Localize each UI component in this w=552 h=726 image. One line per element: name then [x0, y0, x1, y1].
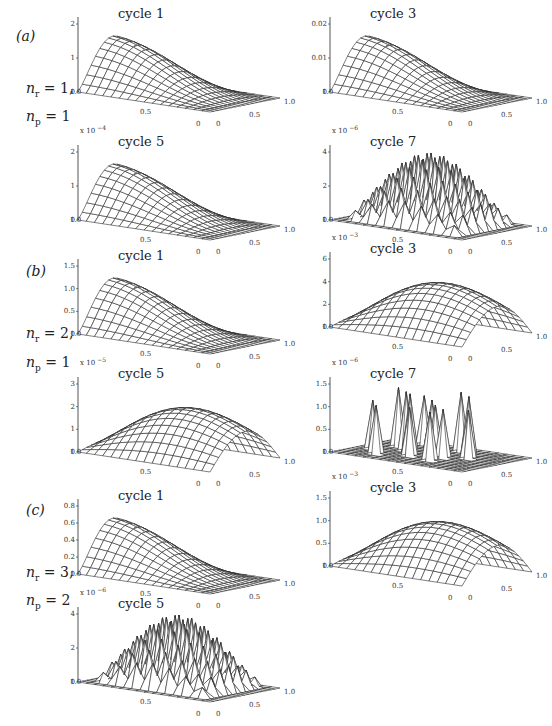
z-axis-tick-label: 1.0	[64, 285, 75, 293]
right-axis-tick-label: 0.5	[501, 239, 512, 247]
left-axis-tick-label: 0.5	[392, 108, 403, 116]
right-axis-tick-label: 0.5	[501, 585, 512, 593]
surface-mesh	[322, 494, 542, 614]
nr-subscript: r	[35, 89, 39, 99]
right-axis-tick-label: 0	[216, 480, 220, 488]
z-axis-tick-label: 0.2	[64, 553, 75, 561]
surface-plot-b-cycle-5: 01231.00.5000.51.0cycle 5x 10 −5	[70, 380, 290, 500]
right-axis-tick-label: 0.5	[501, 471, 512, 479]
surface-mesh	[322, 148, 542, 268]
right-axis-tick-label: 0.5	[249, 593, 260, 601]
right-axis-tick-label: 0.5	[249, 701, 260, 709]
left-axis-tick-label: 0	[196, 602, 200, 610]
z-axis-tick-label: 0.02	[311, 20, 327, 28]
left-axis-tick-label: 0	[448, 594, 452, 602]
right-axis-tick-label: 0	[216, 362, 220, 370]
param-np-a: np = 1	[26, 108, 70, 127]
right-axis-tick-label: 1.0	[284, 340, 295, 348]
right-axis-tick-label: 1.0	[284, 458, 295, 466]
plot-title: cycle 1	[118, 488, 164, 503]
plot-title: cycle 5	[118, 134, 164, 149]
right-axis-tick-label: 1.0	[536, 458, 547, 466]
nr-value: = 2,	[44, 325, 74, 341]
z-axis-tick-label: 1.5	[64, 262, 75, 270]
z-axis-tick-label: 2	[323, 182, 327, 190]
z-axis-tick-label: 1.0	[316, 403, 327, 411]
nr-value: = 3,	[44, 564, 74, 580]
surface-plot-a-cycle-7: 0241.00.5000.51.0cycle 7x 10 −6	[322, 148, 542, 268]
z-axis-tick-label: 1	[71, 182, 75, 190]
left-axis-tick-label: 1.0	[322, 448, 333, 456]
surface-mesh	[322, 380, 542, 500]
nr-subscript: r	[35, 334, 39, 344]
right-axis-tick-label: 0	[468, 480, 472, 488]
plot-title: cycle 3	[370, 241, 416, 256]
left-axis-tick-label: 0	[196, 480, 200, 488]
left-axis-tick-label: 0	[448, 120, 452, 128]
right-axis-tick-label: 0.5	[501, 346, 512, 354]
left-axis-tick-label: 1.0	[70, 678, 81, 686]
right-axis-tick-label: 0	[216, 710, 220, 718]
left-axis-tick-label: 1.0	[322, 88, 333, 96]
nr-subscript: r	[35, 573, 39, 583]
left-axis-tick-label: 1.0	[70, 88, 81, 96]
z-scale-factor: x 10 −6	[332, 124, 358, 135]
z-axis-tick-label: 2	[71, 148, 75, 156]
left-axis-tick-label: 0.5	[140, 468, 151, 476]
np-value: = 1	[45, 354, 70, 370]
z-scale-factor: x 10 −3	[332, 231, 358, 242]
nr-value: = 1,	[44, 80, 74, 96]
param-nr-a: nr = 1,	[26, 80, 73, 99]
z-axis-tick-label: 4	[323, 148, 327, 156]
left-axis-tick-label: 0.5	[392, 582, 403, 590]
left-axis-tick-label: 1.0	[322, 323, 333, 331]
plot-title: cycle 7	[370, 366, 416, 381]
z-scale-factor: x 10 −4	[80, 124, 106, 135]
right-axis-tick-label: 0.5	[501, 111, 512, 119]
np-symbol: n	[26, 354, 35, 370]
np-value: = 1	[45, 108, 70, 124]
plot-title: cycle 5	[118, 366, 164, 381]
plot-title: cycle 5	[118, 596, 164, 611]
surface-plot-a-cycle-1: 0121.00.5000.51.0cycle 1	[70, 20, 290, 140]
z-axis-tick-label: 0.4	[64, 536, 75, 544]
left-axis-tick-label: 0	[196, 248, 200, 256]
surface-plot-a-cycle-3: 00.010.021.00.5000.51.0cycle 3	[322, 20, 542, 140]
nr-symbol: n	[26, 564, 35, 580]
left-axis-tick-label: 0	[196, 120, 200, 128]
z-axis-tick-label: 4	[71, 610, 75, 618]
left-axis-tick-label: 0	[448, 355, 452, 363]
right-axis-tick-label: 1.0	[284, 98, 295, 106]
left-axis-tick-label: 1.0	[70, 330, 81, 338]
right-axis-tick-label: 1.0	[284, 688, 295, 696]
z-axis-tick-label: 3	[71, 380, 75, 388]
z-scale-factor: x 10 −5	[80, 356, 106, 367]
right-axis-tick-label: 0.5	[249, 111, 260, 119]
right-axis-tick-label: 1.0	[284, 580, 295, 588]
z-axis-tick-label: 1.5	[316, 380, 327, 388]
surface-plot-c-cycle-3: 00.51.01.51.00.5000.51.0cycle 3x 10 −3	[322, 494, 542, 614]
right-axis-tick-label: 0	[468, 594, 472, 602]
z-axis-tick-label: 1.5	[316, 494, 327, 502]
right-axis-tick-label: 0	[216, 120, 220, 128]
plot-title: cycle 3	[370, 480, 416, 495]
right-axis-tick-label: 0	[216, 248, 220, 256]
panel-label-b: (b)	[26, 263, 46, 279]
left-axis-tick-label: 0.5	[140, 108, 151, 116]
left-axis-tick-label: 1.0	[70, 570, 81, 578]
page-running-header	[180, 0, 380, 8]
left-axis-tick-label: 0.5	[392, 468, 403, 476]
right-axis-tick-label: 0.5	[249, 471, 260, 479]
surface-plot-b-cycle-7: 00.51.01.51.00.5000.51.0cycle 7x 10 −6	[322, 380, 542, 500]
right-axis-tick-label: 1.0	[536, 226, 547, 234]
z-axis-tick-label: 0.5	[316, 425, 327, 433]
surface-mesh	[70, 380, 290, 500]
surface-plot-c-cycle-1: 00.20.40.60.81.00.5000.51.0cycle 1	[70, 502, 290, 622]
z-axis-tick-label: 6	[323, 255, 327, 263]
z-axis-tick-label: 1	[71, 425, 75, 433]
left-axis-tick-label: 0	[196, 710, 200, 718]
nr-symbol: n	[26, 80, 35, 96]
surface-mesh	[70, 502, 290, 622]
plot-title: cycle 1	[118, 248, 164, 263]
plot-title: cycle 3	[370, 6, 416, 21]
